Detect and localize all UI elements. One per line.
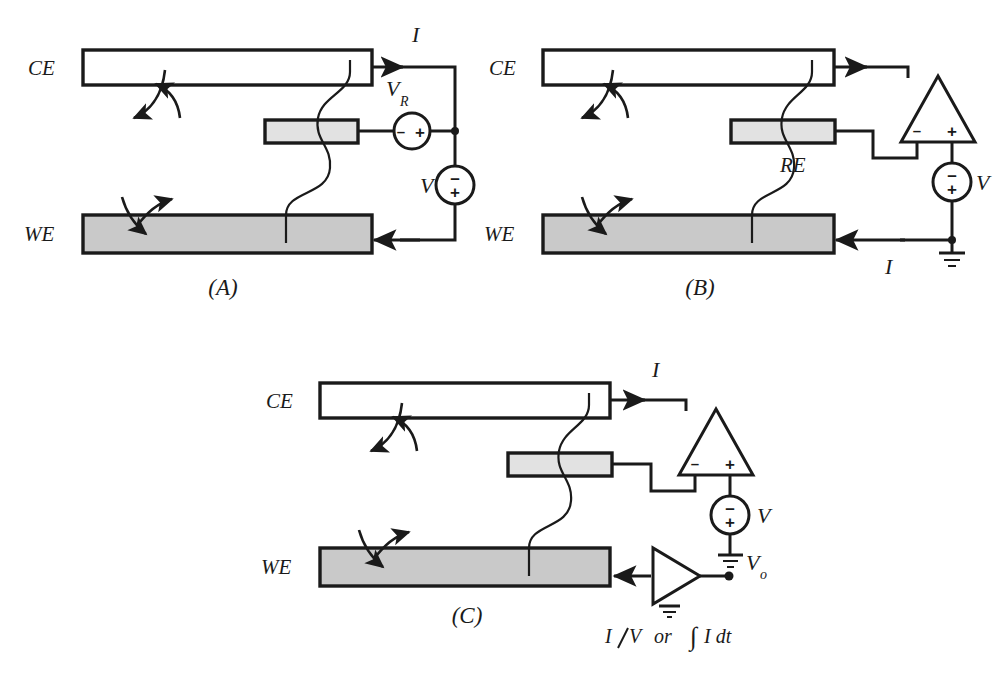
panel-b-v-label: V	[976, 170, 992, 195]
panel-c-we-electrode	[320, 548, 610, 586]
panel-c-v-plus: +	[725, 513, 735, 532]
panel-c: CE WE I – + – + V	[261, 357, 773, 652]
panel-c-v-label: V	[757, 503, 773, 528]
panel-c-function-numerator: I	[604, 625, 613, 647]
panel-a-we-label: WE	[24, 222, 54, 246]
panel-c-ground-icon-amp	[659, 606, 680, 617]
panel-c-opamp-inverting-label: –	[691, 455, 699, 472]
panel-c-we-label: WE	[261, 555, 291, 579]
panel-a-re-electrode	[265, 120, 358, 143]
panel-c-ce-label: CE	[266, 389, 293, 413]
panel-c-function-conjunction: or	[654, 625, 672, 647]
panel-b-ce-label: CE	[489, 56, 516, 80]
panel-a-v-label: V	[420, 173, 436, 198]
panel-c-opamp-noninverting-label: +	[725, 455, 735, 474]
panel-a-wire-return	[400, 204, 455, 240]
panel-b-we-electrode	[543, 215, 834, 253]
panel-c-function-integrand: I dt	[703, 625, 732, 647]
electrochemical-cell-diagram: CE WE I – + V R –	[0, 0, 1000, 675]
panel-c-output-voltage-sublabel: o	[760, 567, 767, 582]
panel-b-opamp-inverting-label: –	[913, 122, 921, 139]
panel-a-vr-sublabel: R	[399, 94, 409, 109]
panel-a-v-plus: +	[450, 183, 460, 202]
panel-c-function-denominator: V	[629, 625, 644, 647]
panel-c-ce-electrode	[320, 383, 610, 418]
panel-b-v-plus: +	[947, 180, 957, 199]
panel-b-wire-ce-to-opamp	[864, 67, 908, 78]
panel-b-ground-icon	[939, 253, 965, 266]
panel-c-ground-icon-upper	[718, 555, 743, 567]
panel-a: CE WE I – + V R –	[24, 22, 474, 300]
panel-b-current-label: I	[884, 254, 894, 279]
figure-root: CE WE I – + V R –	[0, 0, 1000, 675]
panel-a-current-label: I	[411, 22, 421, 47]
panel-a-ce-label: CE	[28, 56, 55, 80]
panel-b: CE RE WE – + – + V	[484, 50, 992, 300]
panel-a-we-electrode	[83, 215, 372, 253]
panel-c-wire-ce-to-opamp	[642, 400, 686, 411]
panel-a-vr-plus: +	[415, 123, 425, 142]
panel-b-ce-electrode	[543, 50, 834, 85]
panel-a-ce-electrode	[83, 50, 372, 85]
panel-c-caption: (C)	[452, 603, 483, 628]
panel-c-output-amplifier	[653, 548, 700, 604]
panel-c-output-node-dot	[725, 572, 734, 581]
panel-a-vr-minus: –	[397, 123, 405, 140]
panel-b-caption: (B)	[685, 275, 714, 300]
panel-c-function-slash	[618, 628, 628, 648]
panel-b-opamp-noninverting-label: +	[947, 122, 957, 141]
panel-b-we-label: WE	[484, 222, 514, 246]
panel-c-function-integral: ∫	[688, 622, 699, 652]
panel-a-caption: (A)	[208, 275, 237, 300]
panel-c-function-caption: I V or ∫ I dt	[604, 622, 732, 652]
panel-c-current-label: I	[651, 357, 661, 382]
